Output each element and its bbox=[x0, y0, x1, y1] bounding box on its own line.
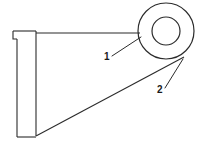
callout-1-leader bbox=[112, 37, 141, 56]
flange-left-edge bbox=[13, 31, 17, 39]
technical-drawing-figure: 1 2 bbox=[0, 0, 206, 148]
callout-2-leader bbox=[165, 59, 183, 88]
gusset-tangent-edge bbox=[36, 57, 184, 136]
boss-inner-bore bbox=[152, 17, 180, 45]
callout-2-label: 2 bbox=[157, 84, 163, 95]
drawing-canvas: 1 2 bbox=[0, 0, 206, 148]
boss-outer-ring bbox=[138, 3, 194, 59]
callout-1-label: 1 bbox=[104, 51, 110, 62]
